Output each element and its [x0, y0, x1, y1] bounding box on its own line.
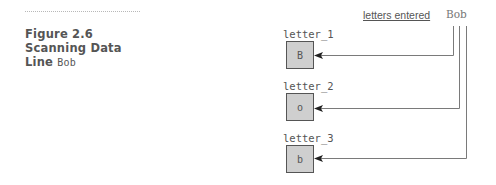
connector-arrows — [0, 0, 496, 185]
arrow-line-letter-1 — [320, 26, 454, 56]
arrow-line-letter-2 — [320, 26, 460, 109]
arrow-line-letter-3 — [320, 26, 467, 159]
